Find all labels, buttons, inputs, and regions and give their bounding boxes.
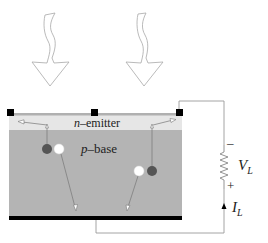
current-arrow-icon	[222, 203, 227, 209]
voltage-label: VL	[238, 157, 253, 176]
solar-cell-diagram: n–emitter p–base – VL + IL	[0, 0, 268, 243]
hole-right	[134, 166, 144, 176]
minus-sign: –	[226, 135, 234, 150]
hole-left	[54, 144, 64, 154]
front-contact-middle	[91, 109, 98, 116]
back-contact	[9, 216, 182, 220]
base-label: p–base	[80, 141, 117, 156]
front-contact-left	[7, 109, 14, 116]
current-label: IL	[231, 199, 243, 218]
light-arrow-left-icon	[32, 13, 69, 86]
electron-left	[42, 144, 52, 154]
plus-sign: +	[227, 178, 234, 193]
emitter-label: n–emitter	[74, 116, 120, 130]
light-arrow-right-icon	[126, 13, 163, 86]
electron-right	[147, 166, 157, 176]
front-contact-right	[176, 109, 183, 116]
